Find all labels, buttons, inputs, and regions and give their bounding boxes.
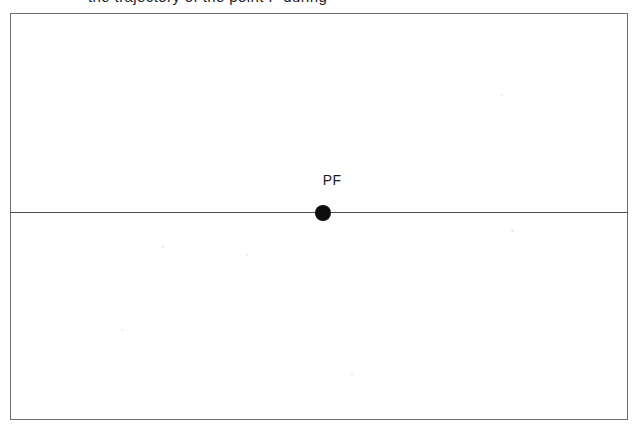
pf-marker-label: PF (306, 172, 358, 188)
scan-speckle (246, 254, 248, 256)
pf-marker-group: PF (306, 172, 358, 222)
pf-marker-dot-icon (315, 205, 331, 221)
scanned-figure-page: the trajectory of the point P during PF (0, 0, 644, 438)
scan-speckle (351, 374, 353, 376)
scan-speckle (121, 329, 123, 331)
caption-text: the trajectory of the point P during (88, 0, 327, 5)
scan-speckle (511, 229, 514, 232)
scan-speckle (161, 246, 164, 248)
scan-speckle (501, 94, 503, 96)
cropped-caption-band: the trajectory of the point P during (0, 0, 644, 9)
